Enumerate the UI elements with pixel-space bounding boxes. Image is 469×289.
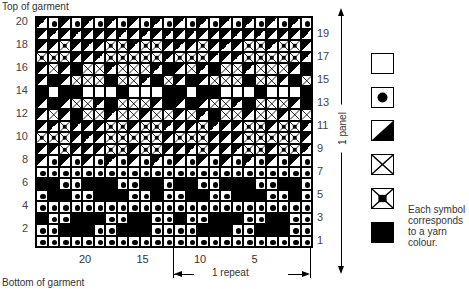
chart-cell (36, 190, 48, 202)
chart-cell (140, 201, 152, 213)
chart-cell (163, 121, 175, 133)
chart-cell (151, 155, 163, 167)
chart-cell (163, 178, 175, 190)
chart-cell (117, 52, 129, 64)
chart-cell (220, 40, 232, 52)
chart-cell (209, 155, 221, 167)
chart-cell (301, 178, 313, 190)
chart-cell (232, 29, 244, 41)
chart-cell (117, 109, 129, 121)
chart-cell (163, 224, 175, 236)
chart-cell (71, 75, 83, 87)
chart-cell (186, 224, 198, 236)
chart-cell (59, 167, 71, 179)
chart-cell (59, 86, 71, 98)
chart-cell (266, 121, 278, 133)
chart-cell (140, 29, 152, 41)
chart-cell (163, 132, 175, 144)
chart-cell (209, 109, 221, 121)
column-number: 5 (252, 253, 258, 265)
chart-cell (71, 63, 83, 75)
chart-cell (48, 190, 60, 202)
row-number: 15 (317, 73, 329, 85)
chart-cell (151, 144, 163, 156)
chart-cell (174, 236, 186, 248)
arrow-right-icon (302, 271, 310, 277)
chart-cell (128, 178, 140, 190)
arrow-down-icon (338, 266, 344, 274)
legend-cross-icon (371, 154, 394, 175)
chart-cell (94, 109, 106, 121)
chart-cell (209, 213, 221, 225)
chart-cell (232, 75, 244, 87)
chart-cell (186, 144, 198, 156)
chart-cell (255, 121, 267, 133)
chart-cell (128, 224, 140, 236)
row-number: 13 (317, 96, 329, 108)
chart-cell (278, 29, 290, 41)
chart-cell (289, 213, 301, 225)
chart-cell (209, 121, 221, 133)
chart-cell (266, 155, 278, 167)
chart-cell (220, 144, 232, 156)
chart-cell (232, 86, 244, 98)
chart-cell (174, 52, 186, 64)
chart-cell (255, 132, 267, 144)
chart-cell (243, 40, 255, 52)
chart-cell (266, 17, 278, 29)
chart-cell (82, 52, 94, 64)
chart-cell (278, 155, 290, 167)
chart-cell (105, 144, 117, 156)
chart-cell (186, 236, 198, 248)
chart-cell (48, 224, 60, 236)
chart-cell (197, 236, 209, 248)
chart-cell (232, 201, 244, 213)
chart-cell (186, 40, 198, 52)
chart-cell (266, 63, 278, 75)
chart-cell (243, 167, 255, 179)
chart-cell (289, 144, 301, 156)
chart-cell (105, 86, 117, 98)
chart-cell (289, 190, 301, 202)
chart-cell (209, 178, 221, 190)
panel-label: 1 panel (337, 105, 348, 153)
chart-cell (209, 224, 221, 236)
chart-cell (266, 132, 278, 144)
chart-cell (197, 132, 209, 144)
arrow-left-icon (174, 271, 182, 277)
chart-cell (209, 190, 221, 202)
chart-cell (301, 201, 313, 213)
chart-cell (289, 17, 301, 29)
chart-cell (48, 86, 60, 98)
row-number: 4 (12, 199, 28, 211)
chart-cell (36, 40, 48, 52)
chart-cell (289, 63, 301, 75)
chart-cell (301, 52, 313, 64)
chart-cell (174, 155, 186, 167)
chart-cell (255, 98, 267, 110)
chart-cell (163, 63, 175, 75)
chart-cell (289, 155, 301, 167)
chart-cell (59, 98, 71, 110)
chart-cell (301, 167, 313, 179)
chart-cell (94, 121, 106, 133)
chart-cell (128, 98, 140, 110)
chart-cell (71, 98, 83, 110)
chart-cell (255, 224, 267, 236)
chart-cell (186, 17, 198, 29)
chart-cell (105, 29, 117, 41)
chart-cell (36, 75, 48, 87)
chart-cell (255, 75, 267, 87)
chart-cell (36, 167, 48, 179)
chart-cell (209, 17, 221, 29)
chart-cell (301, 63, 313, 75)
chart-cell (220, 213, 232, 225)
repeat-label: 1 repeat (212, 267, 249, 278)
chart-cell (140, 178, 152, 190)
chart-cell (301, 17, 313, 29)
chart-cell (289, 52, 301, 64)
chart-cell (220, 121, 232, 133)
chart-cell (94, 155, 106, 167)
chart-cell (48, 178, 60, 190)
chart-cell (266, 109, 278, 121)
